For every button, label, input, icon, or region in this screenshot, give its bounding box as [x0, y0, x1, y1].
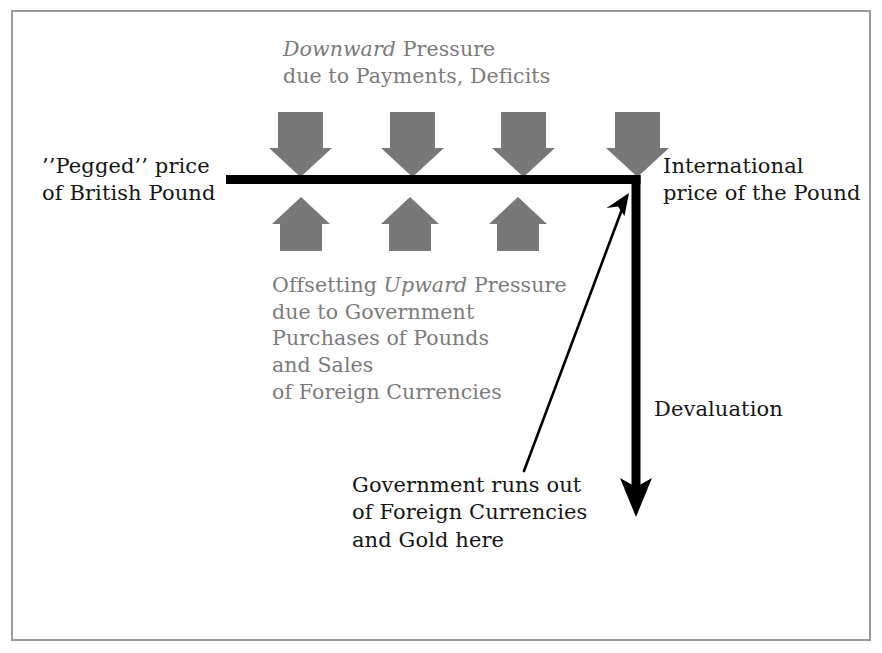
upward-pressure-arrow-group — [272, 197, 547, 251]
pegged-price-label-line1: ’’Pegged’’ price — [42, 154, 210, 178]
downward-pressure-arrow — [606, 112, 669, 177]
downward-pressure-arrow-group — [269, 112, 669, 177]
downward-pressure-arrow — [269, 112, 332, 177]
upward-pressure-arrow — [489, 197, 547, 251]
runs-out-pointer-arrow-head — [607, 193, 630, 216]
diagram-canvas: Downward Pressuredue to Payments, Defici… — [0, 0, 882, 653]
international-price-label-line1: International — [663, 154, 804, 178]
offsetting-pressure-label-line5: of Foreign Currencies — [272, 380, 502, 404]
downward-pressure-arrow — [381, 112, 444, 177]
devaluation-label: Devaluation — [654, 396, 783, 423]
downward-pressure-label-line2: due to Payments, Deficits — [283, 64, 550, 88]
pegged-price-label-line2: of British Pound — [42, 181, 215, 205]
offsetting-pressure-label: Offsetting Upward Pressuredue to Governm… — [272, 272, 567, 405]
pegged-price-label: ’’Pegged’’ priceof British Pound — [42, 153, 215, 208]
government-runs-out-label-line2: of Foreign Currencies — [352, 500, 587, 524]
offsetting-pressure-label-line3: Purchases of Pounds — [272, 326, 489, 350]
downward-pressure-label: Downward Pressuredue to Payments, Defici… — [283, 36, 550, 89]
offsetting-pressure-label-line1-pre: Offsetting — [272, 273, 384, 297]
upward-pressure-arrow — [272, 197, 330, 251]
government-runs-out-label-line1: Government runs out — [352, 473, 581, 497]
government-runs-out-label: Government runs outof Foreign Currencies… — [352, 472, 587, 554]
upward-pressure-arrow — [381, 197, 439, 251]
downward-pressure-label-line1: Pressure — [396, 37, 495, 61]
international-price-label: Internationalprice of the Pound — [663, 153, 860, 208]
downward-pressure-label-emphasis: Downward — [283, 37, 396, 61]
offsetting-pressure-label-line2: due to Government — [272, 300, 474, 324]
offsetting-pressure-label-line1-post: Pressure — [467, 273, 566, 297]
government-runs-out-label-line3: and Gold here — [352, 528, 504, 552]
offsetting-pressure-label-line4: and Sales — [272, 353, 373, 377]
offsetting-pressure-label-emphasis: Upward — [384, 273, 468, 297]
international-price-label-line2: price of the Pound — [663, 181, 860, 205]
downward-pressure-arrow — [492, 112, 555, 177]
